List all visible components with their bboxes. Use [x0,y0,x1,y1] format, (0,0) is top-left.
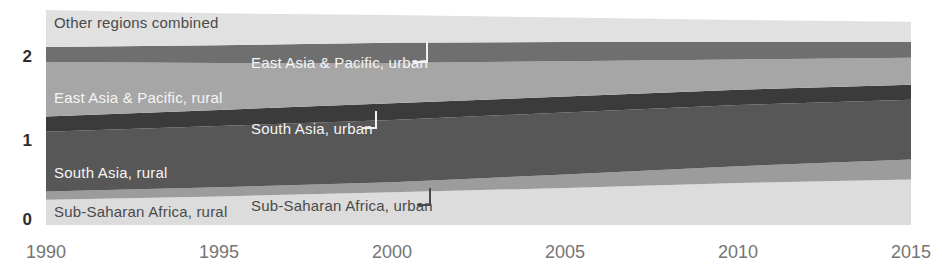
band-label-other-regions-combined: Other regions combined [54,15,219,30]
stacked-area-plot [0,0,942,277]
x-tick-label-1990: 1990 [26,243,66,262]
y-tick-label-1: 1 [0,132,32,150]
x-tick-label-2015: 2015 [891,243,931,262]
band-label-sub-saharan-africa-urban: Sub-Saharan Africa, urban [251,198,433,213]
x-tick-label-2005: 2005 [545,243,585,262]
band-label-east-asia-pacific-urban: East Asia & Pacific, urban [251,55,428,70]
band-label-sub-saharan-africa-rural: Sub-Saharan Africa, rural [54,204,227,219]
y-tick-label-0: 0 [0,211,32,229]
x-tick-label-1995: 1995 [199,243,239,262]
band-label-east-asia-pacific-rural: East Asia & Pacific, rural [54,90,223,105]
x-tick-label-2000: 2000 [372,243,412,262]
chart-canvas: 012 199019952000200520102015 Other regio… [0,0,942,277]
band-label-south-asia-urban: South Asia, urban [251,121,373,136]
x-tick-label-2010: 2010 [718,243,758,262]
sub-saharan-africa-urban-callout-line [417,188,431,206]
y-tick-label-2: 2 [0,48,32,66]
band-label-south-asia-rural: South Asia, rural [54,165,167,180]
south-asia-urban-callout-line [363,111,377,129]
east-asia-pacific-urban-callout-line [413,41,428,63]
